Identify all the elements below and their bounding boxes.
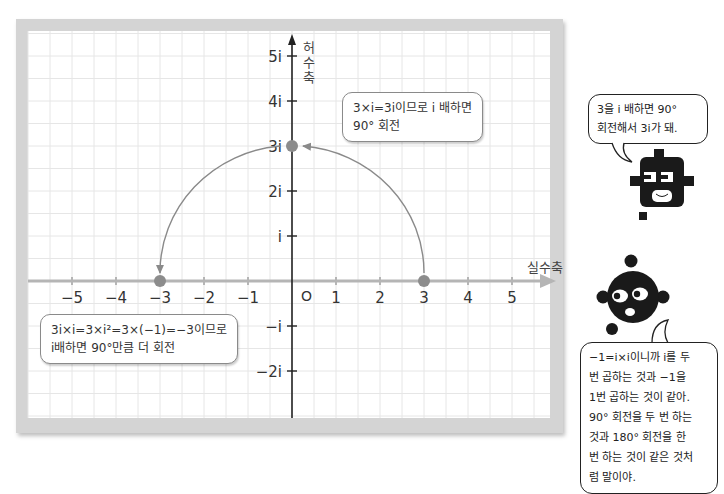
real-tick-label: 4 [463,289,473,307]
round-bubble-line: 것과 180° 회전을 한 [589,428,709,448]
imaginary-tick-label: −i [265,318,282,336]
real-tick-label: −1 [237,289,259,307]
point-3 [418,275,430,287]
origin-label: O [301,288,312,304]
point-neg3 [154,275,166,287]
round-character-speech-bubble: −1=i×i이니까 i를 두 번 곱하는 것과 −1을 1번 곱하는 것이 같아… [580,342,718,494]
callout-second-line2: i배하면 90°만큼 더 회전 [51,339,227,357]
real-tick-label: 3 [419,289,429,307]
round-bubble-line: 번 곱하는 것과 −1을 [589,368,709,388]
rotation-arc-second [160,146,280,273]
real-axis-arrow-icon [540,274,556,288]
real-tick-label: −3 [149,289,171,307]
callout-first-line1: 3×i=3i이므로 i 배하면 [353,99,472,117]
real-tick-label: −4 [105,289,127,307]
imaginary-tick-label: 4i [268,93,282,111]
square-bubble-line1: 3을 i 배하면 90° [597,100,699,119]
real-axis-label: 실수축 [527,260,563,275]
real-tick-label: 2 [375,289,385,307]
round-bubble-line: −1=i×i이니까 i를 두 [589,348,709,368]
real-tick-label: 5 [507,289,517,307]
real-tick-label: −2 [193,289,215,307]
callout-second-line1: 3i×i=3×i²=3×(−1)=−3이므로 [51,321,227,339]
imaginary-tick-label: 2i [268,183,282,201]
point-3i [286,140,298,152]
round-bubble-line: 90° 회전을 두 번 하는 [589,408,709,428]
callout-first-line2: 90° 회전 [353,117,472,135]
imaginary-tick-label: −2i [256,363,282,381]
svg-text:허수축: 허수축 [303,40,315,85]
real-tick-label: 1 [331,289,341,307]
real-tick-label: −5 [61,289,83,307]
imaginary-axis-arrow-icon [288,34,296,45]
round-bubble-line: 1번 곱하는 것이 같아. [589,388,709,408]
rotation-arc-first [303,146,424,273]
round-bubble-line: 번 하는 것이 같은 것처 [589,448,709,468]
round-bubble-line: 럼 말이야. [589,468,709,488]
imaginary-axis-label: 허수축 [303,40,315,85]
imaginary-tick-label: i [278,228,282,246]
square-bubble-line2: 회전해서 3i가 돼. [597,119,699,138]
square-character-speech-bubble: 3을 i 배하면 90° 회전해서 3i가 돼. [588,94,708,144]
imaginary-tick-label: 5i [268,48,282,66]
callout-first-rotation: 3×i=3i이므로 i 배하면 90° 회전 [342,92,483,142]
callout-second-rotation: 3i×i=3×i²=3×(−1)=−3이므로 i배하면 90°만큼 더 회전 [40,314,238,364]
